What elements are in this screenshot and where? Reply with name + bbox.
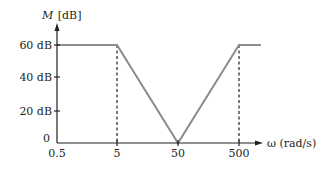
y-tick-label-20: 20 dB <box>19 105 52 118</box>
x-tick-label-500: 500 <box>229 147 250 160</box>
x-axis-arrow-icon <box>255 141 263 146</box>
x-tick-label-5: 5 <box>114 147 121 160</box>
y-axis-arrow-icon <box>55 23 60 31</box>
y-tick-label-60: 60 dB <box>19 39 52 52</box>
magnitude-curve <box>57 45 261 143</box>
y-tick-label-40: 40 dB <box>19 71 52 84</box>
bode-magnitude-chart: M [dB] 60 dB 40 dB 20 dB 0 0.5 5 50 500 … <box>0 0 327 174</box>
y-axis-label: M [dB] <box>41 9 81 22</box>
x-tick-label-50: 50 <box>171 147 185 160</box>
origin-label: 0 <box>43 132 50 145</box>
x-axis-label: ω (rad/s) <box>267 137 316 150</box>
x-tick-label-0-5: 0.5 <box>48 147 66 160</box>
